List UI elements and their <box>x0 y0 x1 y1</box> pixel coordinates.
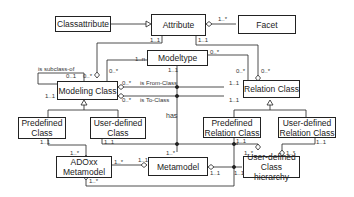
mult-mc-from: 0..* <box>122 80 131 87</box>
mult-mt-right: 0..* <box>210 49 219 56</box>
mult-rc-from: 1..1 <box>229 80 239 87</box>
class-predefined-class[interactable]: Predefined Class <box>18 117 66 139</box>
label-is-to-class: is To-Class <box>140 97 169 104</box>
mult-mc-top: 0..* <box>109 68 118 75</box>
mult-mc-sub-top: 0..1 <box>66 73 76 80</box>
mult-udch-left: 1..1 <box>234 170 244 177</box>
mult-mt-left: 1..n <box>135 56 145 63</box>
mult-udch-top-left: 1..* <box>244 150 253 157</box>
mult-rc-top-left: 0..* <box>236 68 245 75</box>
label-is-subclass-of: is subclass-of <box>38 66 74 73</box>
mult-pc-bottom: 1..1 <box>40 139 50 146</box>
mult-udc-bottom: 1..1 <box>104 139 114 146</box>
mult-mt-bottom: 1..1 <box>168 67 178 74</box>
class-relation-class[interactable]: Relation Class <box>243 80 300 98</box>
class-user-defined-relation-class[interactable]: User-defined Relation Class <box>278 117 336 138</box>
class-modeltype[interactable]: Modeltype <box>147 50 208 66</box>
mult-adoxx-bottom: 1..* <box>89 178 98 185</box>
mult-prc-bottom: 1..1 <box>236 138 246 145</box>
label-has: has <box>166 112 177 119</box>
class-metamodel[interactable]: Metamodel <box>148 157 208 176</box>
mult-udrc-bottom: 1..1 <box>316 139 326 146</box>
mult-rc-top: 0..* <box>261 68 270 75</box>
mult-udch-top-right: 1..* <box>286 150 295 157</box>
mult-rc-to: 1..1 <box>229 97 239 104</box>
mult-attr-facet: 1..* <box>218 16 227 23</box>
mult-attr-right: 1..1 <box>198 37 208 44</box>
mult-mm-top: 1..* <box>166 150 175 157</box>
mult-adoxx-right: 1..* <box>114 159 123 166</box>
label-is-from-class: is From-Class <box>140 80 177 87</box>
class-adoxx-metamodel[interactable]: ADOxx Metamodel <box>56 156 112 178</box>
mult-mm-left: 1..1 <box>138 157 148 164</box>
mult-mc-top-left: 0..* <box>83 73 92 80</box>
mult-mc-to: 0..* <box>122 97 131 104</box>
mult-mm-right: 1..1 <box>210 170 220 177</box>
class-predefined-relation-class[interactable]: Predefined Relation Class <box>203 117 261 138</box>
class-modeling-class[interactable]: Modeling Class <box>57 81 118 100</box>
class-attribute[interactable]: Attribute <box>151 14 206 36</box>
mult-adoxx-top: 1..* <box>70 150 79 157</box>
class-classattribute[interactable]: Classattribute <box>55 16 111 32</box>
class-user-defined-class[interactable]: User-defined Class <box>90 117 146 139</box>
class-facet[interactable]: Facet <box>238 15 296 34</box>
mult-attr-left: 1..1 <box>150 37 160 44</box>
class-user-defined-class-hierarchy[interactable]: User-defined Class hierarchy <box>243 156 300 178</box>
mult-mc-sub-bottom: 1..1 <box>45 93 55 100</box>
